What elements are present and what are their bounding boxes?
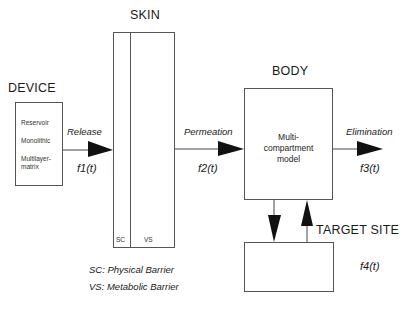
body-model-text: Multi- compartment model xyxy=(245,132,332,165)
legend-sc: SC: Physical Barrier xyxy=(89,264,174,275)
permeation-arrow xyxy=(175,141,244,156)
skin-layer-vs: VS xyxy=(144,236,153,243)
target-title: TARGET SITE xyxy=(316,223,399,237)
device-type-multilayer: Multilayer- xyxy=(21,155,51,162)
body-box: Multi- compartment model xyxy=(244,88,333,200)
body-title: BODY xyxy=(272,64,308,78)
target-box xyxy=(244,242,334,292)
permeation-label: Permeation xyxy=(184,126,233,137)
skin-title: SKIN xyxy=(130,8,160,22)
legend-vs: VS: Metabolic Barrier xyxy=(89,281,179,292)
elimination-label: Elimination xyxy=(346,126,392,137)
release-arrow xyxy=(63,141,113,157)
body-model-line-2: compartment xyxy=(245,143,332,154)
release-function: f1(t) xyxy=(77,162,97,174)
device-box: Reservoir Monolithic Multilayer- matrix xyxy=(15,102,63,186)
device-type-matrix: matrix xyxy=(21,163,39,170)
body-model-line-3: model xyxy=(245,154,332,165)
device-type-monolithic: Monolithic xyxy=(21,137,50,144)
skin-box: SC VS xyxy=(113,32,175,248)
skin-layer-sc: SC xyxy=(116,236,125,243)
permeation-function: f2(t) xyxy=(198,162,218,174)
device-type-reservoir: Reservoir xyxy=(21,119,49,126)
body-to-target-arrow xyxy=(268,200,281,242)
elimination-arrow xyxy=(333,141,383,156)
release-label: Release xyxy=(67,126,102,137)
skin-layer-divider xyxy=(130,33,131,247)
target-function: f4(t) xyxy=(360,260,380,272)
body-model-line-1: Multi- xyxy=(245,132,332,143)
target-to-body-arrow xyxy=(301,200,313,242)
device-title: DEVICE xyxy=(8,81,56,95)
elimination-function: f3(t) xyxy=(360,162,380,174)
